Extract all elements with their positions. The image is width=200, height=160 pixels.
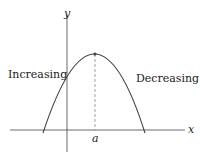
maximum-point (93, 52, 96, 55)
increasing-label: Increasing (8, 68, 67, 81)
function-graph: x y a Increasing Decreasing (0, 0, 200, 160)
tick-label-a: a (92, 132, 99, 145)
decreasing-label: Decreasing (136, 72, 199, 85)
parabola-curve (43, 54, 145, 133)
y-axis-label: y (63, 7, 71, 20)
x-axis-label: x (188, 123, 195, 136)
